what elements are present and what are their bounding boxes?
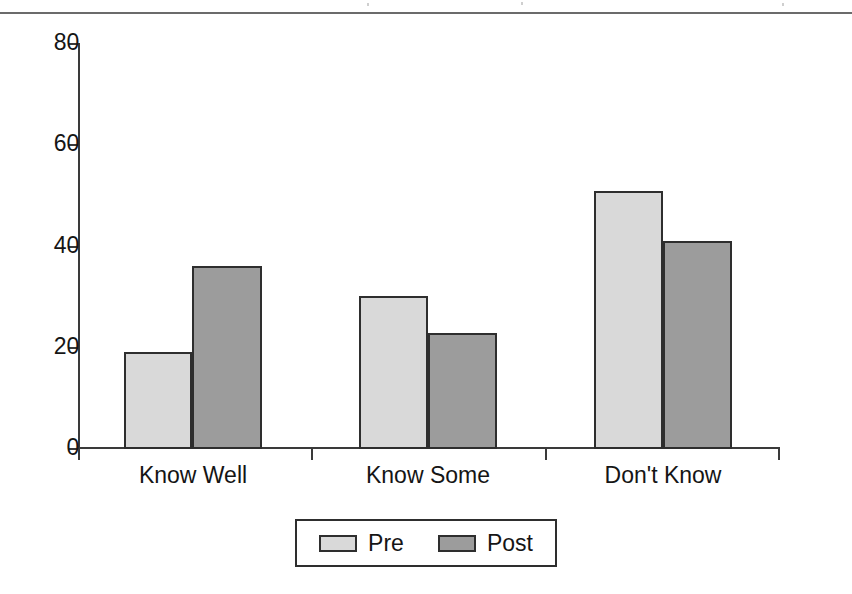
bar-pre-know-some xyxy=(359,296,428,449)
bar-pre-know-well xyxy=(124,352,192,449)
chart-legend: Pre Post xyxy=(295,519,557,567)
bar-post-dont-know xyxy=(663,241,732,449)
x-tick-mark xyxy=(311,449,313,460)
legend-swatch-post xyxy=(438,535,476,552)
chart-page: 0 20 40 60 80 Know Well Know Some xyxy=(0,0,852,594)
x-category-label-2: Don't Know xyxy=(563,462,763,489)
legend-label-pre: Pre xyxy=(368,532,404,555)
x-tick-mark xyxy=(778,449,780,460)
x-tick-mark xyxy=(78,449,80,460)
y-tick-label: 40 xyxy=(19,234,79,257)
y-tick-80: 80 xyxy=(0,43,79,45)
bar-post-know-some xyxy=(428,333,497,449)
legend-swatch-pre xyxy=(319,535,357,552)
x-tick-mark xyxy=(545,449,547,460)
bar-post-know-well xyxy=(192,266,262,449)
legend-entry-pre: Pre xyxy=(319,532,404,555)
legend-entry-post: Post xyxy=(438,532,533,555)
y-tick-0: 0 xyxy=(0,448,79,450)
legend-label-post: Post xyxy=(487,532,533,555)
y-tick-60: 60 xyxy=(0,144,79,146)
grouped-bar-chart: 0 20 40 60 80 Know Well Know Some xyxy=(0,0,852,594)
x-category-label-0: Know Well xyxy=(93,462,293,489)
y-tick-20: 20 xyxy=(0,347,79,349)
y-tick-label: 0 xyxy=(19,436,79,459)
y-tick-label: 80 xyxy=(19,31,79,54)
y-tick-40: 40 xyxy=(0,246,79,248)
y-tick-label: 60 xyxy=(19,132,79,155)
x-category-label-1: Know Some xyxy=(328,462,528,489)
y-tick-label: 20 xyxy=(19,335,79,358)
bar-pre-dont-know xyxy=(594,191,663,449)
